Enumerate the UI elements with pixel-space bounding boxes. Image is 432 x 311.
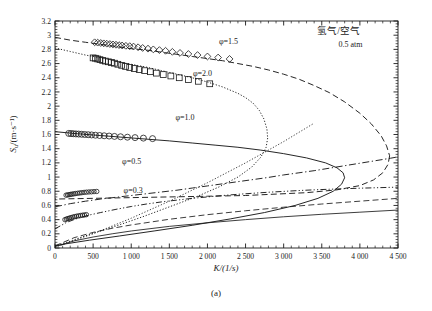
x-tick-label: 3 000 [275,252,292,261]
y-tick-label: 0.4 [42,215,52,224]
chart-annotation: 氢气/空气 [317,25,360,36]
x-tick-label: 4 000 [351,252,368,261]
figure-caption: (a) [0,288,432,298]
x-tick-label: 2 500 [237,252,254,261]
chart-annotation: φ=1.0 [175,113,194,122]
chart-annotation: φ=1.5 [219,37,238,46]
chart-annotation: φ=2.0 [193,69,212,78]
y-tick-labels: 00.20.40.60.811.21.41.61.822.22.42.62.83… [42,17,52,253]
x-tick-label: 2 000 [199,252,216,261]
y-tick-label: 0.8 [42,187,52,196]
x-tick-label: 500 [87,252,99,261]
y-tick-label: 2.4 [42,73,52,82]
x-tick-label: 3 500 [313,252,330,261]
chart-annotation: φ=0.5 [122,157,141,166]
y-tick-label: 1.2 [42,158,52,167]
laminar-burning-velocity-chart: 05001 0001 5002 0002 5003 0003 5004 0004… [0,0,432,311]
y-tick-label: 3.2 [42,17,52,26]
y-tick-label: 1.8 [42,116,52,125]
y-tick-label: 1 [47,173,51,182]
y-tick-label: 0.2 [42,229,52,238]
chart-annotation: 0.5 atm [339,40,364,49]
y-tick-label: 1.6 [42,130,52,139]
y-tick-label: 0.6 [42,201,52,210]
x-axis-label: K/(1/s) [212,263,238,273]
figure-container: 05001 0001 5002 0002 5003 0003 5004 0004… [0,0,432,311]
y-tick-label: 2.8 [42,45,52,54]
x-tick-label: 0 [53,252,57,261]
y-tick-label: 2.6 [42,59,52,68]
y-tick-label: 2.2 [42,88,52,97]
x-tick-label: 1 500 [161,252,178,261]
y-tick-label: 2 [47,102,51,111]
y-tick-label: 1.4 [42,144,52,153]
chart-annotation: φ=0.3 [124,186,143,195]
x-tick-label: 1 000 [123,252,140,261]
x-tick-label: 4 500 [389,252,406,261]
y-tick-label: 0 [47,244,51,253]
y-tick-label: 3 [47,31,51,40]
